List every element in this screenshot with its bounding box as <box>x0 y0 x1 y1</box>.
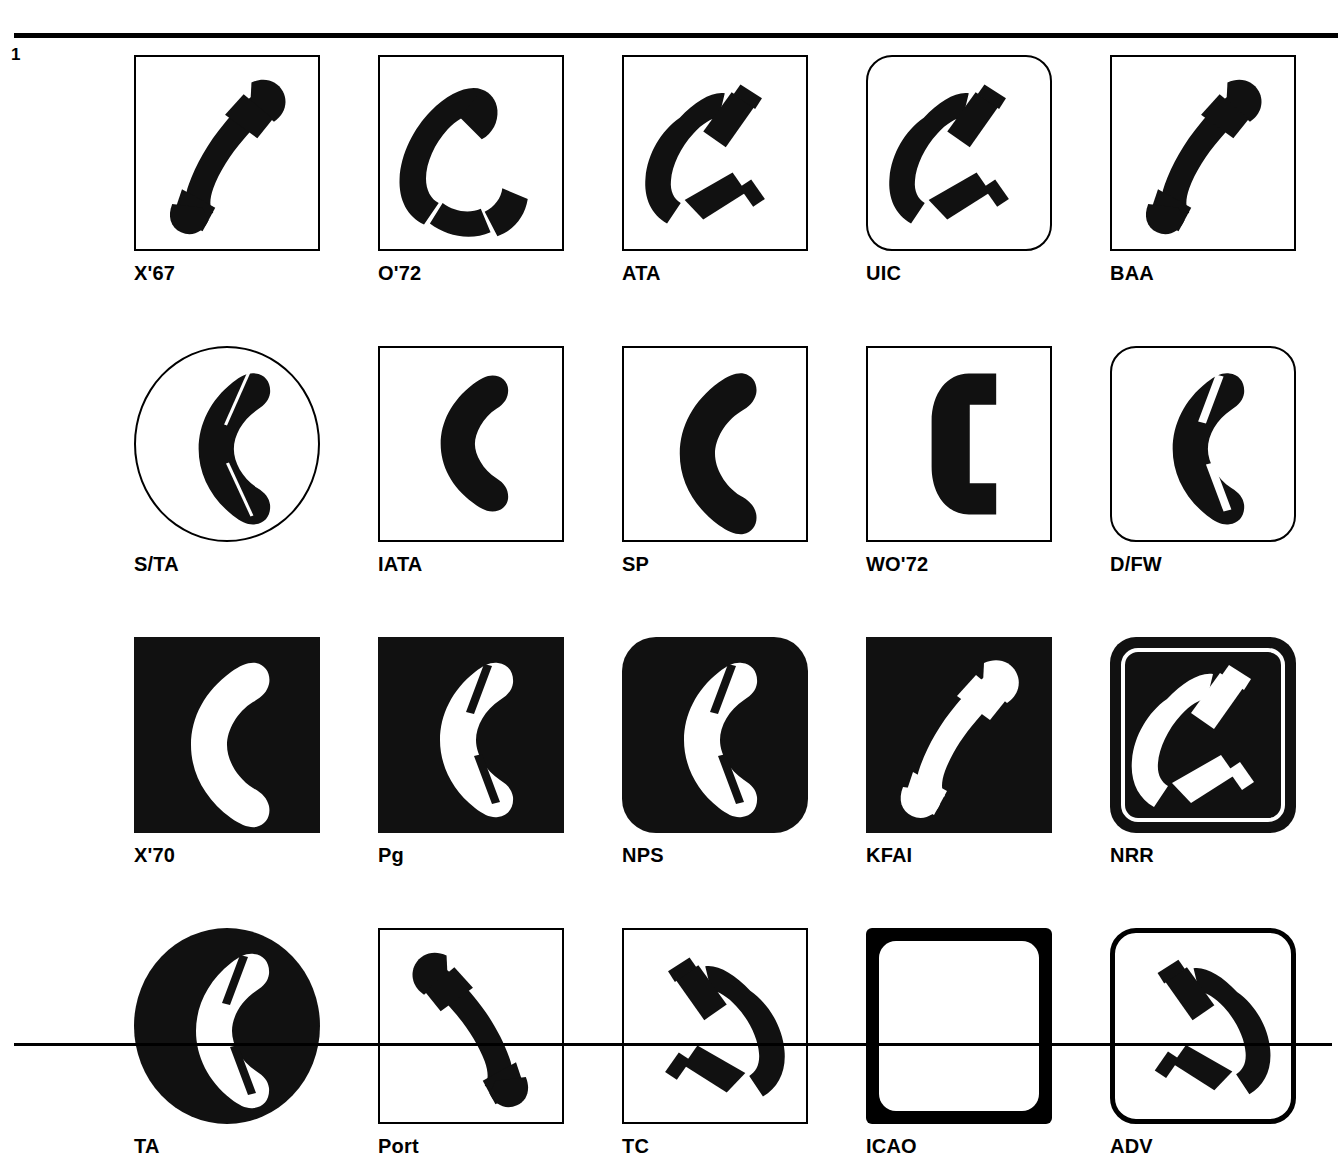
symbol-frame-thick-bordered <box>866 928 1052 1124</box>
telephone-handset-icon <box>134 928 320 1124</box>
symbol-label: WO'72 <box>866 554 1052 574</box>
telephone-handset-icon <box>1110 637 1296 833</box>
telephone-handset-icon <box>1112 348 1294 540</box>
symbol-label: NRR <box>1110 845 1296 865</box>
symbol-cell: KFAI <box>866 637 1052 865</box>
symbol-label: O'72 <box>378 263 564 283</box>
symbol-frame-black-square <box>866 637 1052 833</box>
symbol-frame-black-outlined-rounded <box>1110 637 1296 833</box>
symbol-label: ADV <box>1110 1136 1296 1156</box>
symbol-label: NPS <box>622 845 808 865</box>
symbol-frame-square <box>378 346 564 542</box>
telephone-handset-icon <box>136 348 318 540</box>
symbol-label: TC <box>622 1136 808 1156</box>
symbol-label: Pg <box>378 845 564 865</box>
bottom-rule <box>14 1043 1332 1046</box>
symbol-frame-black-square <box>378 637 564 833</box>
symbol-cell: Port <box>378 928 564 1156</box>
telephone-handset-icon <box>624 57 806 249</box>
telephone-handset-icon <box>1115 933 1291 1119</box>
symbol-label: X'67 <box>134 263 320 283</box>
symbol-frame-square <box>134 55 320 251</box>
symbol-frame-square <box>866 346 1052 542</box>
symbol-frame-black-square <box>134 637 320 833</box>
telephone-handset-icon <box>380 348 562 540</box>
symbol-cell: X'67 <box>134 55 320 283</box>
symbol-cell: X'70 <box>134 637 320 865</box>
symbol-cell: O'72 <box>378 55 564 283</box>
symbol-label: S/TA <box>134 554 320 574</box>
symbol-label: IATA <box>378 554 564 574</box>
symbol-label: X'70 <box>134 845 320 865</box>
symbol-cell: NRR <box>1110 637 1296 865</box>
symbol-cell: SP <box>622 346 808 574</box>
telephone-handset-icon <box>624 930 806 1122</box>
symbol-label: BAA <box>1110 263 1296 283</box>
symbol-label: KFAI <box>866 845 1052 865</box>
symbol-cell: NPS <box>622 637 808 865</box>
telephone-handset-icon <box>378 637 564 833</box>
top-rule <box>14 33 1338 38</box>
symbol-label: SP <box>622 554 808 574</box>
telephone-handset-icon <box>622 637 808 833</box>
page-number: 1 <box>11 46 20 63</box>
symbol-frame-square <box>622 928 808 1124</box>
symbol-frame-rounded <box>1110 346 1296 542</box>
symbol-cell: ATA <box>622 55 808 283</box>
telephone-handset-icon <box>136 57 318 249</box>
telephone-handset-icon <box>866 928 1052 1124</box>
telephone-handset-icon <box>868 348 1050 540</box>
symbol-cell: D/FW <box>1110 346 1296 574</box>
telephone-handset-icon <box>380 930 562 1122</box>
symbol-grid: X'67 O'72 ATA UIC BAA S/TAIATA SP WO'72 … <box>134 55 1334 1156</box>
symbol-frame-square <box>378 928 564 1124</box>
symbol-cell: BAA <box>1110 55 1296 283</box>
symbol-frame-rounded-thick <box>1110 928 1296 1124</box>
telephone-handset-icon <box>1112 57 1294 249</box>
symbol-frame-black-circle <box>134 928 320 1124</box>
symbol-label: D/FW <box>1110 554 1296 574</box>
symbol-label: UIC <box>866 263 1052 283</box>
symbol-cell: IATA <box>378 346 564 574</box>
symbol-cell: ICAO <box>866 928 1052 1156</box>
symbol-cell: WO'72 <box>866 346 1052 574</box>
symbol-cell: S/TA <box>134 346 320 574</box>
telephone-handset-icon <box>624 348 806 540</box>
symbol-frame-square <box>622 55 808 251</box>
symbol-frame-square <box>1110 55 1296 251</box>
telephone-handset-icon <box>134 637 320 833</box>
symbol-label: Port <box>378 1136 564 1156</box>
symbol-frame-black-rounded <box>622 637 808 833</box>
symbol-cell: TC <box>622 928 808 1156</box>
symbol-cell: UIC <box>866 55 1052 283</box>
symbol-frame-rounded <box>866 55 1052 251</box>
symbol-label: ATA <box>622 263 808 283</box>
symbol-cell: TA <box>134 928 320 1156</box>
symbol-frame-square <box>622 346 808 542</box>
symbol-cell: ADV <box>1110 928 1296 1156</box>
symbol-label: TA <box>134 1136 320 1156</box>
telephone-handset-icon <box>868 57 1050 249</box>
symbol-frame-square <box>378 55 564 251</box>
symbol-label: ICAO <box>866 1136 1052 1156</box>
symbol-cell: Pg <box>378 637 564 865</box>
telephone-handset-icon <box>380 57 562 249</box>
telephone-handset-icon <box>866 637 1052 833</box>
symbol-frame-circle <box>134 346 320 542</box>
